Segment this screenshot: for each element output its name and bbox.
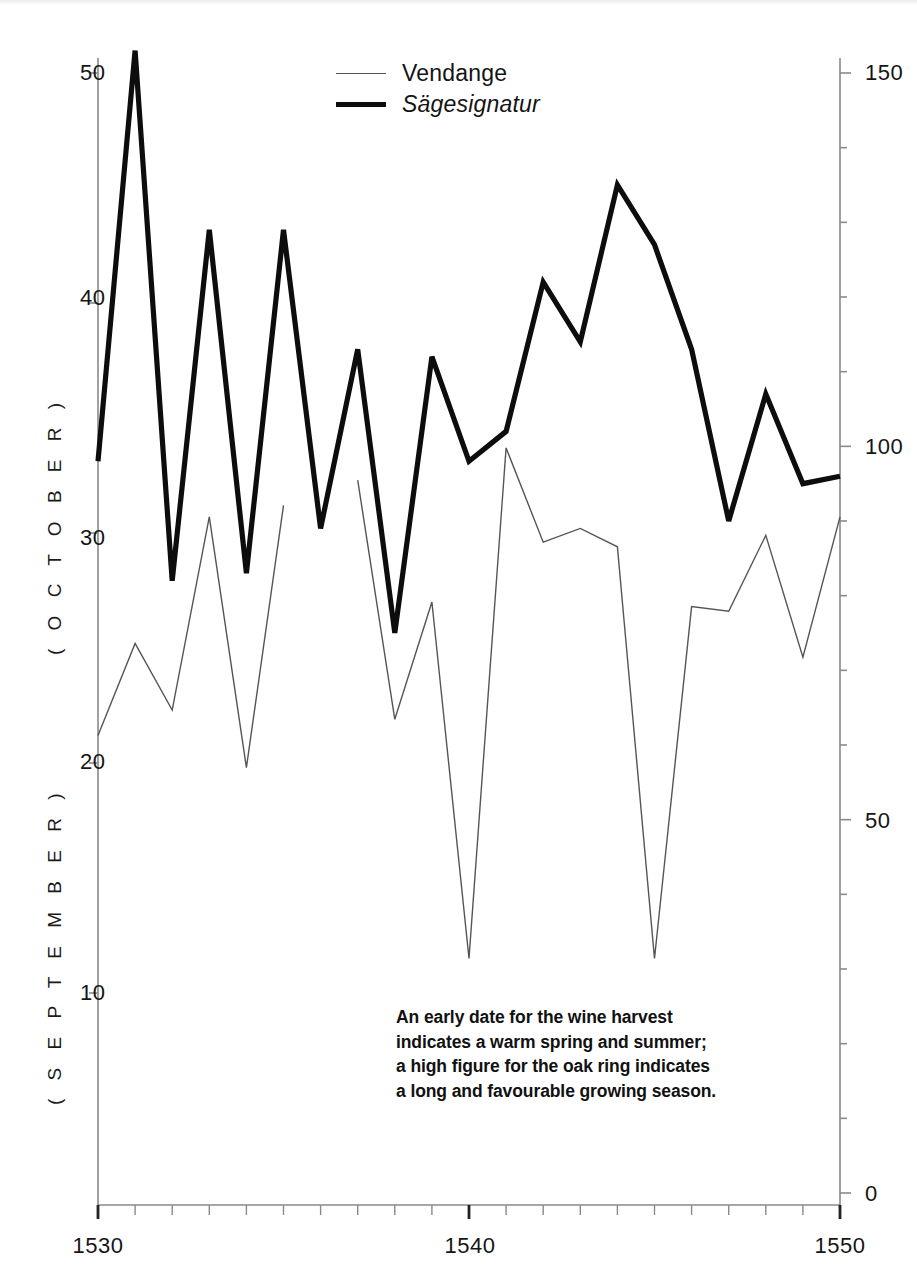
chart-annotation: An early date for the wine harvest indic…: [396, 1005, 736, 1103]
annotation-line-2: indicates a warm spring and summer;: [396, 1030, 736, 1055]
left-axis-tick-50: 50: [80, 60, 105, 86]
series-line-vendange: [98, 505, 284, 767]
legend-item-sagesignatur[interactable]: Sägesignatur: [336, 89, 636, 120]
annotation-line-3: a high figure for the oak ring indicates: [396, 1054, 736, 1079]
right-axis-tick-100: 100: [865, 434, 903, 460]
legend-line-swatch-thick-icon: [336, 102, 386, 107]
annotation-line-4: a long and favourable growing season.: [396, 1079, 736, 1104]
right-axis-tick-150: 150: [865, 60, 903, 86]
legend-label-sagesignatur: Sägesignatur: [402, 91, 540, 118]
left-axis-tick-10: 10: [80, 980, 105, 1006]
left-axis-tick-30: 30: [80, 525, 105, 551]
x-axis-tick-1530: 1530: [53, 1233, 143, 1259]
annotation-line-1: An early date for the wine harvest: [396, 1005, 736, 1030]
left-axis-tick-40: 40: [80, 285, 105, 311]
chart-page: 50 40 30 20 10 150 100 50 0 1530 1540 15…: [0, 0, 917, 1288]
y-axis-title-september: ( S E P T E M B E R ): [44, 787, 66, 1105]
y-axis-title-october: ( O C T O B E R ): [44, 396, 66, 655]
series-line-sagesignatur: [98, 51, 840, 633]
legend-line-swatch-thin-icon: [336, 73, 386, 74]
x-axis-tick-1540: 1540: [425, 1233, 515, 1259]
x-axis-tick-1550: 1550: [795, 1233, 885, 1259]
legend-label-vendange: Vendange: [402, 60, 507, 87]
legend-item-vendange[interactable]: Vendange: [336, 58, 636, 89]
left-axis-tick-20: 20: [80, 749, 105, 775]
right-axis-tick-0: 0: [865, 1181, 878, 1207]
right-axis-tick-50: 50: [865, 808, 890, 834]
series-line-vendange: [358, 448, 840, 959]
chart-legend: Vendange Sägesignatur: [336, 58, 636, 120]
